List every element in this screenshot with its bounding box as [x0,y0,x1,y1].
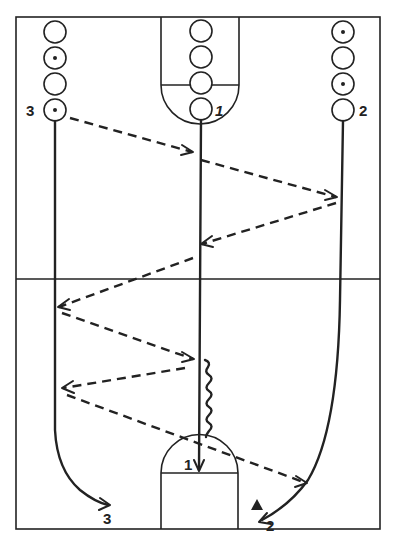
left-line-players: 3 [26,21,66,121]
right-line-players: 2 [332,21,367,121]
shot-triangle-icon [251,499,263,510]
right-line-label: 2 [359,102,367,119]
arrowhead-icon [325,190,337,200]
middle-player-cut [199,120,201,470]
middle-line-players: 1 [190,20,223,120]
drill-diagram: 3 1 2 [0,0,393,555]
end-label-left: 3 [103,510,111,527]
pass-paths [58,118,337,487]
end-label-middle: 1 [184,456,192,473]
dribble-path [205,360,212,437]
cut-paths [55,120,343,524]
middle-line-label: 1 [215,102,223,119]
end-label-right: 2 [266,517,274,534]
arrowhead-icon [62,381,74,393]
left-line-label: 3 [26,102,34,119]
arrowhead-icon [182,352,194,362]
arrowhead-icon [201,236,213,247]
